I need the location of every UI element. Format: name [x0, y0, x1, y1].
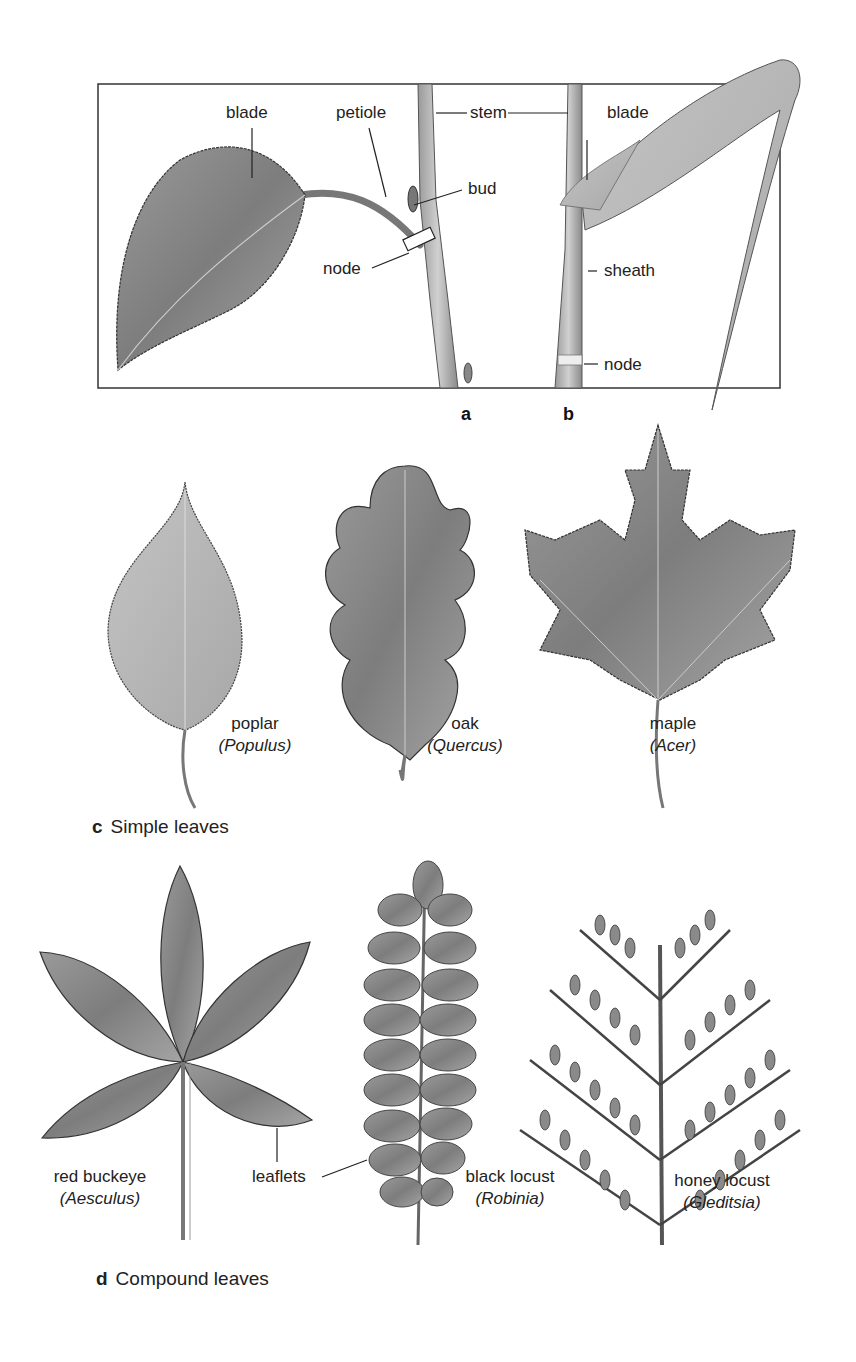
label-oak: oak (Quercus): [415, 715, 515, 755]
red-buckeye-common-name: red buckeye: [40, 1168, 160, 1187]
black-locust-common-name: black locust: [455, 1168, 565, 1187]
label-b-blade: blade: [607, 104, 649, 123]
label-b-sheath: sheath: [604, 262, 655, 281]
monocot-stem: [555, 84, 582, 388]
label-a-blade: blade: [226, 104, 268, 123]
label-leaflets: leaflets: [252, 1168, 306, 1187]
oak-genus-name: (Quercus): [415, 737, 515, 756]
label-a-node: node: [323, 260, 361, 279]
dicot-blade: [117, 147, 305, 370]
maple-common-name: maple: [628, 715, 718, 734]
label-a-petiole: petiole: [336, 104, 386, 123]
caption-c-text: Simple leaves: [111, 816, 229, 837]
dicot-bud: [408, 186, 418, 212]
oak-common-name: oak: [415, 715, 515, 734]
label-poplar: poplar (Populus): [200, 715, 310, 755]
label-red-buckeye: red buckeye (Aesculus): [40, 1168, 160, 1208]
panel-letter-a: a: [461, 404, 471, 425]
honey-locust-genus-name: (Gleditsia): [662, 1194, 782, 1213]
monocot-blade: [560, 60, 800, 410]
poplar-leaf: [108, 482, 242, 808]
panel-letter-d: d: [96, 1268, 108, 1289]
poplar-common-name: poplar: [200, 715, 310, 734]
red-buckeye-genus-name: (Aesculus): [40, 1190, 160, 1209]
panel-letter-b: b: [563, 404, 574, 425]
label-maple: maple (Acer): [628, 715, 718, 755]
poplar-genus-name: (Populus): [200, 737, 310, 756]
honey-locust-common-name: honey locust: [662, 1172, 782, 1191]
label-a-bud: bud: [468, 180, 496, 199]
label-black-locust: black locust (Robinia): [455, 1168, 565, 1208]
leaf-diagram-illustration: [0, 0, 856, 1362]
label-b-node: node: [604, 356, 642, 375]
maple-genus-name: (Acer): [628, 737, 718, 756]
panel-letter-c: c: [92, 816, 103, 837]
caption-d-text: Compound leaves: [116, 1268, 269, 1289]
black-locust-genus-name: (Robinia): [455, 1190, 565, 1209]
caption-compound-leaves: dCompound leaves: [96, 1268, 269, 1290]
label-honey-locust: honey locust (Gleditsia): [662, 1172, 782, 1212]
caption-simple-leaves: cSimple leaves: [92, 816, 229, 838]
label-stem: stem: [470, 104, 507, 123]
